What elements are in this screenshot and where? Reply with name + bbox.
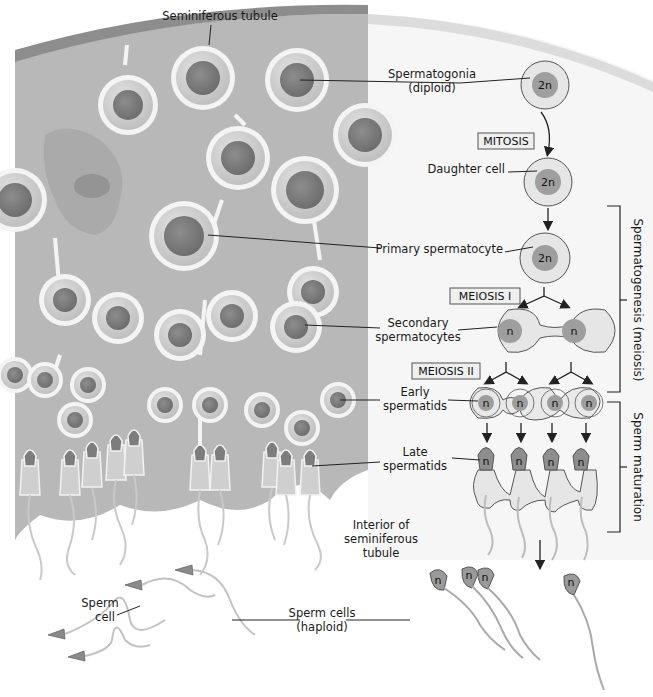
schematic-early-spermatids: n n n n [470,388,603,421]
label-sperm: Sperm [81,596,118,610]
svg-text:n: n [466,569,473,582]
svg-text:n: n [578,456,585,469]
spermatogenesis-bracket-label: Spermatogenesis (meiosis) [631,218,645,381]
label-cell: cell [95,610,115,624]
label-interior-3: tubule [363,546,400,560]
tissue-free-sperm [48,565,255,661]
label-early-spermatids: spermatids [383,399,447,413]
svg-text:MITOSIS: MITOSIS [483,135,528,148]
meiosis-ii-box: MEIOSIS II [412,363,480,379]
label-sperm-cells: Sperm cells [289,606,356,620]
label-spermatogonia-ploidy: (diploid) [408,81,456,95]
svg-text:2n: 2n [538,79,552,92]
svg-text:n: n [516,455,523,468]
tissue-section [0,5,397,580]
schematic-free-sperm: n n n n [430,567,604,690]
label-haploid: (haploid) [296,620,347,634]
svg-text:n: n [586,397,593,410]
spermatogenesis-diagram: 2n 2n 2n n n [0,0,653,697]
label-secondary: Secondary [388,316,449,330]
svg-text:n: n [552,397,559,410]
label-early: Early [400,385,429,399]
svg-text:2n: 2n [541,176,555,189]
label-spermatocytes: spermatocytes [375,330,460,344]
label-interior-1: Interior of [353,518,411,532]
tissue-primary-spermatocyte [149,201,219,271]
svg-text:n: n [568,576,575,589]
svg-text:MEIOSIS II: MEIOSIS II [418,365,474,378]
label-interior-2: seminiferous [344,532,418,546]
label-daughter-cell: Daughter cell [427,162,505,176]
svg-text:n: n [571,325,578,338]
label-late-spermatids: spermatids [383,459,447,473]
svg-text:n: n [517,397,524,410]
label-late: Late [402,445,427,459]
svg-text:n: n [507,325,514,338]
svg-text:n: n [482,571,489,584]
label-seminiferous-tubule: Seminiferous tubule [162,9,277,23]
schematic-daughter-cell: 2n [524,158,572,206]
svg-text:n: n [548,456,555,469]
label-spermatogonia: Spermatogonia [388,67,476,81]
schematic-primary-spermatocyte: 2n [520,233,570,283]
meiosis-i-box: MEIOSIS I [450,288,520,304]
svg-text:n: n [435,574,442,587]
schematic-background [368,14,653,560]
maturation-bracket-label: Sperm maturation [631,412,645,521]
svg-text:n: n [483,397,490,410]
svg-text:MEIOSIS I: MEIOSIS I [459,290,511,303]
label-primary-spermatocyte: Primary spermatocyte [376,242,504,256]
svg-text:n: n [483,455,490,468]
mitosis-box: MITOSIS [478,133,534,149]
schematic-spermatogonia: 2n [521,61,569,109]
svg-text:2n: 2n [538,252,552,265]
